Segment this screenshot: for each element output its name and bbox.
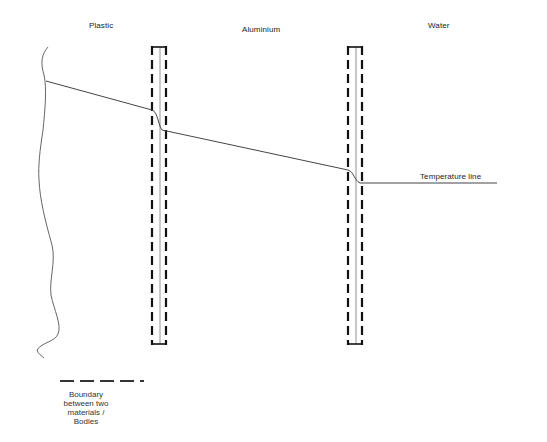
- boundary-aluminium-water: [347, 46, 363, 345]
- plastic-wavy-edge: [37, 47, 59, 358]
- region-label-aluminium: Aluminium: [242, 25, 280, 34]
- legend-line-1: Boundary: [46, 390, 126, 399]
- legend-boundary-description: Boundary between two materials / Bodies: [46, 390, 126, 426]
- legend-line-2: between two: [46, 399, 126, 408]
- boundary-plastic-aluminium: [151, 46, 167, 345]
- temperature-line-label: Temperature line: [420, 172, 481, 181]
- heat-conduction-diagram: [0, 0, 547, 442]
- region-label-water: Water: [428, 21, 450, 30]
- temperature-line: [46, 81, 497, 183]
- legend-line-4: Bodies: [46, 417, 126, 426]
- region-label-plastic: Plastic: [89, 21, 113, 30]
- legend-line-3: materials /: [46, 408, 126, 417]
